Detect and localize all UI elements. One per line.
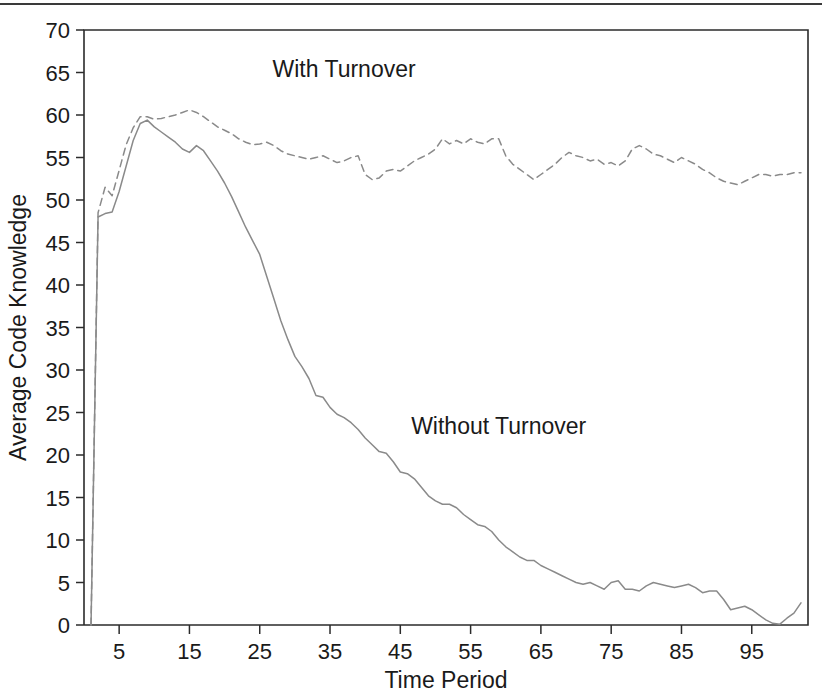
y-tick-label: 45 [46, 231, 70, 256]
chart-labels-layer: 0510152025303540455055606570515253545556… [5, 18, 764, 693]
series-annotation-2: Without Turnover [411, 413, 586, 439]
x-tick-label: 5 [113, 639, 125, 664]
y-tick-label: 25 [46, 401, 70, 426]
chart-axes [76, 30, 808, 634]
y-tick-label: 70 [46, 18, 70, 43]
series-annotation-1: With Turnover [272, 56, 415, 82]
plot-frame [84, 30, 808, 625]
x-tick-label: 15 [177, 639, 201, 664]
y-tick-label: 65 [46, 61, 70, 86]
x-tick-label: 55 [458, 639, 482, 664]
line-chart: 0510152025303540455055606570515253545556… [0, 0, 822, 698]
chart-series-layer [91, 110, 801, 625]
y-tick-label: 20 [46, 443, 70, 468]
y-tick-label: 0 [58, 613, 70, 638]
chart-figure: 0510152025303540455055606570515253545556… [0, 0, 822, 698]
x-tick-label: 95 [740, 639, 764, 664]
x-tick-label: 65 [529, 639, 553, 664]
series-line-without-turnover [91, 120, 801, 625]
y-axis-title: Average Code Knowledge [5, 194, 31, 461]
y-tick-label: 50 [46, 188, 70, 213]
y-tick-label: 60 [46, 103, 70, 128]
x-axis-title: Time Period [384, 667, 507, 693]
x-tick-label: 85 [669, 639, 693, 664]
y-tick-label: 10 [46, 528, 70, 553]
y-tick-label: 30 [46, 358, 70, 383]
x-tick-label: 75 [599, 639, 623, 664]
y-tick-label: 55 [46, 146, 70, 171]
x-tick-label: 35 [318, 639, 342, 664]
y-tick-label: 40 [46, 273, 70, 298]
x-tick-label: 25 [247, 639, 271, 664]
y-tick-label: 35 [46, 316, 70, 341]
y-tick-label: 15 [46, 486, 70, 511]
y-tick-label: 5 [58, 571, 70, 596]
series-line-with-turnover [91, 110, 801, 625]
x-tick-label: 45 [388, 639, 412, 664]
